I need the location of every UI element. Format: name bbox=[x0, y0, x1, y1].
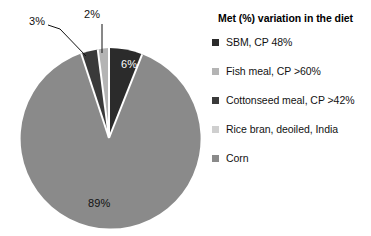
legend-item-label: SBM, CP 48% bbox=[226, 37, 292, 48]
legend-item-fish-meal: Fish meal, CP >60% bbox=[212, 65, 371, 77]
legend-item-sbm: SBM, CP 48% bbox=[212, 36, 371, 48]
pie-label-corn: 89% bbox=[88, 198, 110, 209]
legend-item-cottonseed-meal: Cottonseed meal, CP >42% bbox=[212, 94, 371, 106]
legend-item-label: Rice bran, deoiled, India bbox=[226, 124, 338, 135]
leader-line-cottonseed bbox=[48, 25, 86, 56]
legend-swatch-icon bbox=[212, 97, 219, 104]
legend-title: Met (%) variation in the diet bbox=[218, 12, 371, 24]
pie-label-fishmeal: 2% bbox=[84, 9, 100, 20]
legend-swatch-icon bbox=[212, 68, 219, 75]
legend-item-label: Corn bbox=[226, 153, 249, 164]
pie-label-sbm: 6% bbox=[121, 59, 137, 70]
legend-item-rice-bran: Rice bran, deoiled, India bbox=[212, 123, 371, 135]
legend-item-corn: Corn bbox=[212, 152, 371, 164]
legend-item-label: Fish meal, CP >60% bbox=[226, 66, 321, 77]
pie-chart-area: 89% 6% 3% 2% bbox=[0, 0, 210, 236]
pie-label-cottonseed: 3% bbox=[29, 16, 45, 27]
pie-chart-figure: 89% 6% 3% 2% Met (%) variation in the di… bbox=[0, 0, 371, 236]
legend-swatch-icon bbox=[212, 39, 219, 46]
legend-swatch-icon bbox=[212, 155, 219, 162]
legend-swatch-icon bbox=[212, 126, 219, 133]
legend-item-label: Cottonseed meal, CP >42% bbox=[226, 95, 354, 106]
legend: Met (%) variation in the diet SBM, CP 48… bbox=[212, 12, 371, 181]
